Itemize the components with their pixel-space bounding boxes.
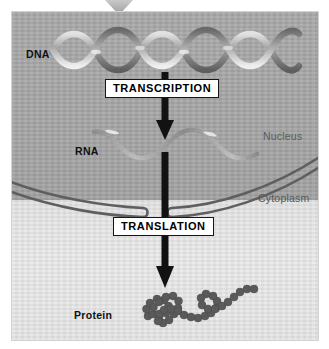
dna-double-helix-icon	[50, 22, 300, 78]
protein-bead-chain-icon	[140, 280, 260, 338]
compartment-label-nucleus: Nucleus	[263, 130, 302, 142]
step-label-transcription: TRANSCRIPTION	[105, 79, 219, 98]
illustration-panel: TRANSCRIPTION TRANSLATION DNA RNA Protei…	[12, 12, 318, 340]
compartment-label-cytoplasm: Cytoplasm	[258, 192, 309, 204]
molecule-label-protein: Protein	[74, 309, 112, 321]
rna-single-strand-icon	[90, 124, 260, 168]
molecule-label-dna: DNA	[26, 48, 50, 60]
diagram-canvas: TRANSCRIPTION TRANSLATION DNA RNA Protei…	[0, 0, 329, 349]
molecule-label-rna: RNA	[75, 145, 99, 157]
step-label-translation: TRANSLATION	[113, 217, 214, 236]
